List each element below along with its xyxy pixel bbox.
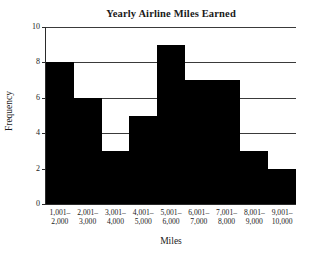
bar-series [46, 27, 296, 204]
histogram-figure: Yearly Airline Miles Earned Frequency Mi… [0, 0, 316, 259]
y-tick-label: 10 [18, 23, 40, 31]
x-axis-title: Miles [46, 236, 296, 246]
y-axis-line [45, 27, 46, 205]
y-tick-label: 0 [18, 200, 40, 208]
y-tick-label: 6 [18, 94, 40, 102]
y-tick-label: 8 [18, 58, 40, 66]
histogram-bar [157, 45, 185, 204]
y-axis-title: Frequency [4, 71, 14, 151]
histogram-bar [129, 116, 157, 205]
x-axis-line [45, 204, 296, 205]
y-tick-label: 2 [18, 165, 40, 173]
y-tick-mark [42, 133, 45, 134]
plot-area [46, 27, 296, 204]
histogram-bar [46, 62, 74, 204]
y-tick-mark [42, 169, 45, 170]
histogram-bar [240, 151, 268, 204]
histogram-bar [74, 98, 102, 204]
x-tick-label-upper: 9,001– [264, 208, 300, 217]
y-tick-mark [42, 98, 45, 99]
histogram-bar [185, 80, 213, 204]
histogram-bar [102, 151, 130, 204]
x-tick-label: 9,001–10,000 [264, 208, 300, 227]
y-tick-mark [42, 204, 45, 205]
histogram-bar [268, 169, 296, 204]
x-tick-label-lower: 10,000 [264, 217, 300, 226]
chart-title: Yearly Airline Miles Earned [46, 8, 296, 19]
y-tick-mark [42, 62, 45, 63]
y-tick-mark [42, 27, 45, 28]
y-tick-label: 4 [18, 129, 40, 137]
histogram-bar [213, 80, 241, 204]
